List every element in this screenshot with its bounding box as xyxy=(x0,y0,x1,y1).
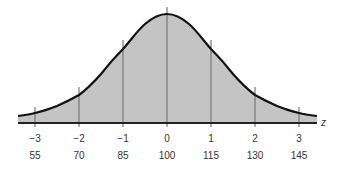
z-tick-label: −1 xyxy=(117,134,128,144)
score-tick-label: 85 xyxy=(117,151,128,161)
score-tick-label: 55 xyxy=(29,151,40,161)
score-tick-label: 145 xyxy=(291,151,308,161)
score-tick-label: 70 xyxy=(73,151,84,161)
z-tick-label: −2 xyxy=(73,134,84,144)
normal-curve-chart xyxy=(0,0,338,173)
z-tick-label: 1 xyxy=(208,134,214,144)
x-axis-title: z xyxy=(321,117,326,128)
score-tick-label: 100 xyxy=(159,151,176,161)
z-tick-label: 0 xyxy=(164,134,170,144)
z-tick-label: 3 xyxy=(296,134,302,144)
score-tick-label: 130 xyxy=(247,151,264,161)
z-tick-label: 2 xyxy=(252,134,258,144)
z-tick-label: −3 xyxy=(29,134,40,144)
score-tick-label: 115 xyxy=(203,151,219,161)
